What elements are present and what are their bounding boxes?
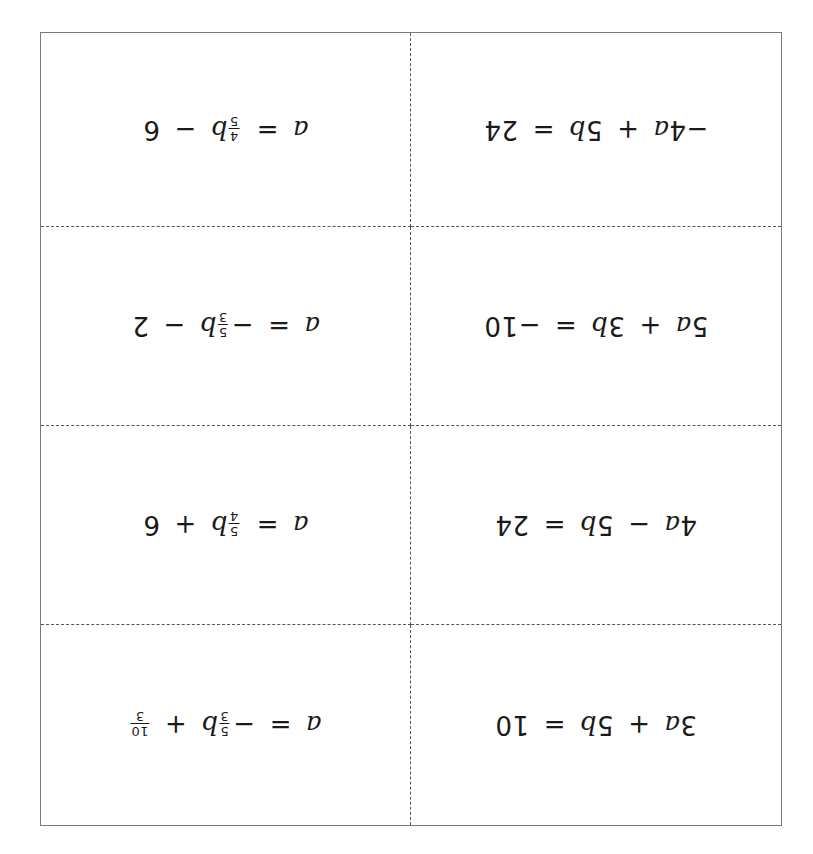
equals-sign: =	[256, 115, 278, 145]
term2-coefficient: 5	[585, 115, 602, 145]
term1-variable: a	[664, 710, 680, 740]
fraction-denominator: 3	[135, 710, 146, 724]
fraction-numerator: 10	[130, 724, 150, 739]
coef-sign: −	[231, 311, 253, 341]
card-row3-right[interactable]: 4 a − 5 b = 24	[411, 426, 781, 625]
term1-coefficient: 5	[691, 311, 708, 341]
equation-slope-intercept: a = − 5 3 b + 10 3	[129, 710, 321, 740]
coefficient-fraction: 5 3	[219, 710, 230, 738]
term2-variable: b	[579, 510, 596, 540]
card-row1-right[interactable]: −4 a + 5 b = 24	[411, 33, 781, 227]
fraction-denominator: 4	[228, 510, 239, 524]
operator: −	[628, 510, 650, 540]
term1-variable: a	[675, 311, 691, 341]
equation-slope-intercept: a = − 5 3 b − 2	[132, 311, 320, 341]
fraction-numerator: 5	[219, 724, 230, 739]
term2-coefficient: 5	[597, 710, 614, 740]
equation-slope-intercept: a = 5 4 b + 6	[143, 510, 309, 540]
card-row1-left[interactable]: a = 4 5 b − 6	[41, 33, 411, 227]
rhs-variable: b	[201, 710, 218, 740]
coef-sign: −	[233, 710, 255, 740]
equation-slope-intercept: a = 4 5 b − 6	[143, 115, 309, 145]
operator: +	[639, 311, 661, 341]
constant: 2	[132, 311, 149, 341]
equals-sign: =	[269, 710, 291, 740]
card-row2-right[interactable]: 5 a + 3 b = −10	[411, 227, 781, 426]
term1-variable: a	[664, 510, 680, 540]
fraction-numerator: 5	[217, 325, 228, 340]
lhs-variable: a	[306, 710, 322, 740]
operator: −	[163, 311, 185, 341]
card-row3-left[interactable]: a = 5 4 b + 6	[41, 426, 411, 625]
equals-sign: =	[554, 311, 576, 341]
term1-coefficient: −4	[669, 115, 708, 145]
lhs-variable: a	[303, 311, 319, 341]
lhs-variable: a	[292, 510, 308, 540]
term1-variable: a	[653, 115, 669, 145]
rhs-constant: 24	[484, 115, 518, 145]
operator: +	[616, 115, 638, 145]
constant-fraction: 10 3	[130, 710, 150, 738]
equation-standard-form: −4 a + 5 b = 24	[484, 115, 708, 145]
fraction-numerator: 4	[228, 128, 239, 143]
equals-sign: =	[256, 510, 278, 540]
operator: +	[174, 510, 196, 540]
operator: +	[628, 710, 650, 740]
equals-sign: =	[267, 311, 289, 341]
fraction-denominator: 3	[219, 710, 230, 724]
equation-standard-form: 4 a − 5 b = 24	[495, 510, 697, 540]
term1-coefficient: 4	[680, 510, 697, 540]
card-sort-sheet: a = 4 5 b − 6 −4 a + 5 b = 24	[40, 32, 782, 826]
rhs-constant: 10	[495, 710, 529, 740]
lhs-variable: a	[292, 115, 308, 145]
card-row2-left[interactable]: a = − 5 3 b − 2	[41, 227, 411, 426]
rhs-variable: b	[199, 311, 216, 341]
rhs-constant: −10	[484, 311, 540, 341]
card-grid: a = 4 5 b − 6 −4 a + 5 b = 24	[41, 33, 781, 825]
term2-variable: b	[568, 115, 585, 145]
constant: 6	[143, 510, 160, 540]
rhs-variable: b	[210, 510, 227, 540]
equals-sign: =	[532, 115, 554, 145]
term2-variable: b	[579, 710, 596, 740]
equation-standard-form: 3 a + 5 b = 10	[495, 710, 697, 740]
operator: +	[165, 710, 187, 740]
equals-sign: =	[543, 510, 565, 540]
term2-coefficient: 5	[597, 510, 614, 540]
coefficient-fraction: 5 3	[217, 311, 228, 339]
equals-sign: =	[543, 710, 565, 740]
constant: 6	[143, 115, 160, 145]
term1-coefficient: 3	[680, 710, 697, 740]
rhs-variable: b	[210, 115, 227, 145]
card-row4-left[interactable]: a = − 5 3 b + 10 3	[41, 625, 411, 825]
term2-variable: b	[591, 311, 608, 341]
card-row4-right[interactable]: 3 a + 5 b = 10	[411, 625, 781, 825]
coefficient-fraction: 5 4	[228, 510, 239, 538]
equation-standard-form: 5 a + 3 b = −10	[484, 311, 708, 341]
fraction-numerator: 5	[228, 524, 239, 539]
rhs-constant: 24	[495, 510, 529, 540]
fraction-denominator: 3	[217, 311, 228, 325]
operator: −	[174, 115, 196, 145]
term2-coefficient: 3	[608, 311, 625, 341]
fraction-denominator: 5	[228, 114, 239, 128]
coefficient-fraction: 4 5	[228, 114, 239, 142]
